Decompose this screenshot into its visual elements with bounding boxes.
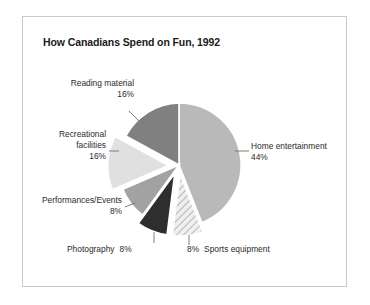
slice-label-home-entertainment: Home entertainment 44% xyxy=(251,141,327,163)
slice-label-sports-equipment-name: Sports equipment xyxy=(199,244,270,254)
slice-label-reading-material-name: Reading material xyxy=(71,78,134,89)
slice-label-photography-pct: 8% xyxy=(115,244,132,254)
slice-label-recreational-facilities-name-line1: Recreational xyxy=(59,129,106,140)
slice-label-reading-material: Reading material 16% xyxy=(71,78,134,100)
slice-label-photography-name: Photography xyxy=(67,244,115,254)
leader-line-reading-material xyxy=(129,111,139,121)
slice-label-performances-events-name: Performances/Events xyxy=(42,195,122,206)
slice-label-recreational-facilities-pct: 16% xyxy=(59,151,106,162)
slice-label-home-entertainment-name: Home entertainment xyxy=(251,141,327,152)
slice-label-sports-equipment-pct: 8% xyxy=(187,244,199,254)
slice-label-performances-events-pct: 8% xyxy=(42,206,122,217)
slice-label-performances-events: Performances/Events 8% xyxy=(42,195,122,217)
slice-label-home-entertainment-pct: 44% xyxy=(251,152,327,163)
slice-label-sports-equipment: 8%Sports equipment xyxy=(187,244,270,255)
slice-label-recreational-facilities-name-line2: facilities xyxy=(59,140,106,151)
chart-figure: How Canadians Spend on Fun, 1992 xyxy=(22,16,347,287)
slice-label-photography: Photography8% xyxy=(67,244,132,255)
slice-label-recreational-facilities: Recreational facilities 16% xyxy=(59,129,106,162)
slice-label-reading-material-pct: 16% xyxy=(71,89,134,100)
